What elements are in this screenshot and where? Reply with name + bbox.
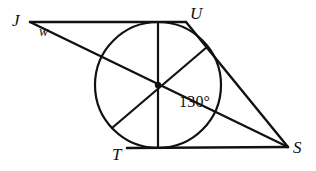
- geometry-figure: J U T S w 130°: [0, 0, 316, 171]
- vertex-label-J: J: [12, 12, 20, 29]
- vertex-label-T: T: [112, 146, 121, 163]
- circle-center-dot: [155, 82, 161, 88]
- vertex-label-S: S: [293, 139, 302, 156]
- angle-measure-label: 130°: [179, 94, 210, 110]
- vertex-label-U: U: [190, 5, 202, 22]
- angle-label-w: w: [39, 25, 48, 39]
